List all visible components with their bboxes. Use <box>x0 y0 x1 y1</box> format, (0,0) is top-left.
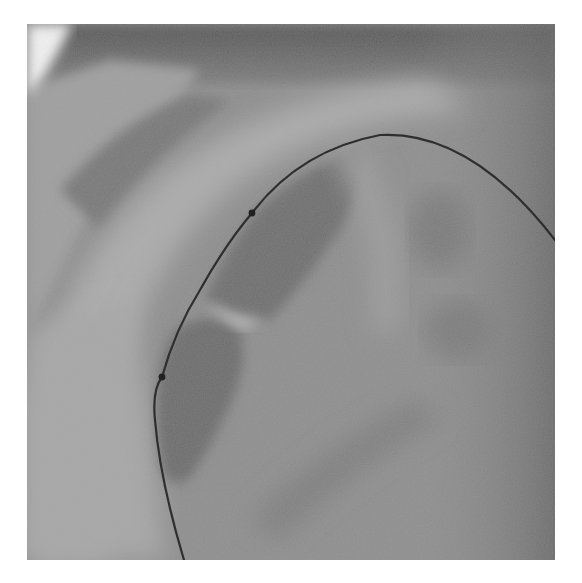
guidewire-marker-1 <box>249 210 256 217</box>
xray-image <box>27 24 555 560</box>
guidewire-marker-2 <box>159 374 166 381</box>
xray-image-frame <box>27 24 555 560</box>
film-grain <box>27 24 555 560</box>
